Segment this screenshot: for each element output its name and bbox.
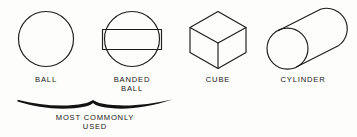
banded-circle-icon	[103, 12, 162, 67]
banded-ball-band	[103, 30, 162, 50]
shape-label-banded-ball-line2: BALL	[121, 84, 143, 93]
shape-figure: BALL BANDED BALL CUBE	[0, 0, 357, 137]
shape-label-ball: BALL	[35, 75, 57, 84]
annotation-line-2: USED	[83, 122, 107, 131]
banded-ball-sphere	[105, 12, 160, 67]
cylinder-near-face	[267, 28, 308, 69]
shape-label-cylinder: CYLINDER	[280, 75, 325, 84]
annotation-line-1: MOST COMMONLY	[56, 113, 134, 122]
tilted-cylinder-icon	[267, 8, 347, 69]
circle-icon	[19, 12, 74, 67]
cylinder-body	[279, 8, 348, 66]
shape-label-banded-ball-line1: BANDED	[114, 75, 151, 84]
shape-label-cube: CUBE	[206, 75, 231, 84]
horizontal-brace	[18, 100, 173, 109]
figure-canvas: BALL BANDED BALL CUBE	[0, 0, 357, 137]
shape-group-ball: BALL	[19, 12, 74, 85]
shape-group-cylinder: CYLINDER	[267, 8, 347, 84]
shape-group-banded-ball: BANDED BALL	[103, 12, 162, 94]
shape-group-cube: CUBE	[190, 12, 246, 85]
isometric-cube-icon	[190, 12, 246, 69]
cube-top-edges	[190, 28, 246, 44]
annotation-group: MOST COMMONLY USED	[18, 100, 173, 131]
